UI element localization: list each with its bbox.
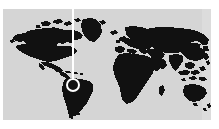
- figure-alt-text: Black silhouette world map on light gray…: [0, 0, 1, 1]
- landmass-australia: [183, 84, 211, 111]
- location-marker[interactable]: [66, 78, 80, 92]
- vertical-pointer-line: [72, 0, 74, 80]
- world-landmasses: [3, 9, 211, 120]
- world-map-figure: Black silhouette world map on light gray…: [0, 0, 219, 129]
- landmass-southeast-asia: [178, 62, 207, 81]
- landmass-greenland: [81, 18, 106, 42]
- map-ocean-plate: [3, 9, 211, 120]
